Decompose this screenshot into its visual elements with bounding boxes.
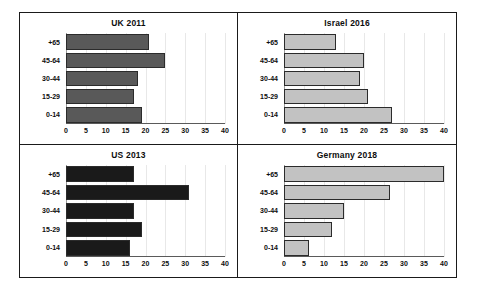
bar-row: 30-44 bbox=[284, 203, 444, 219]
bar-category-label: 0-14 bbox=[264, 111, 278, 118]
plot-area: +6545-6430-4415-290-14 bbox=[284, 33, 444, 124]
bar-category-label: +65 bbox=[48, 171, 60, 178]
x-tick-labels: 0510152025303540 bbox=[284, 127, 444, 139]
panel-title: Germany 2018 bbox=[238, 150, 456, 160]
bar bbox=[66, 34, 149, 49]
x-tick-label: 40 bbox=[221, 260, 229, 267]
bar bbox=[66, 185, 189, 201]
gridline bbox=[444, 33, 445, 124]
bar bbox=[284, 166, 444, 182]
bar-series: +6545-6430-4415-290-14 bbox=[284, 165, 444, 257]
x-tick-labels: 0510152025303540 bbox=[284, 260, 444, 272]
bar-category-label: 0-14 bbox=[264, 244, 278, 251]
bar bbox=[284, 34, 336, 49]
x-tick-label: 10 bbox=[320, 260, 328, 267]
gridline bbox=[444, 165, 445, 257]
gridline bbox=[225, 33, 226, 124]
x-tick-label: 35 bbox=[420, 127, 428, 134]
bar-category-label: 15-29 bbox=[42, 93, 60, 100]
x-tick-label: 5 bbox=[84, 127, 88, 134]
bar bbox=[284, 185, 390, 201]
bar-row: 45-64 bbox=[66, 185, 225, 201]
x-tick-label: 0 bbox=[282, 127, 286, 134]
bar bbox=[66, 53, 165, 68]
bar bbox=[284, 89, 368, 104]
bar-row: 0-14 bbox=[284, 107, 444, 122]
bar-category-label: 30-44 bbox=[260, 75, 278, 82]
bar-row: 15-29 bbox=[66, 89, 225, 104]
panel-title: Israel 2016 bbox=[238, 18, 456, 28]
bar-category-label: +65 bbox=[266, 39, 278, 46]
plot-area: +6545-6430-4415-290-14 bbox=[66, 33, 225, 124]
bar-row: 15-29 bbox=[284, 222, 444, 238]
x-tick-labels: 0510152025303540 bbox=[66, 260, 225, 272]
bar bbox=[284, 107, 392, 122]
bar-category-label: 30-44 bbox=[42, 207, 60, 214]
x-tick-label: 5 bbox=[302, 260, 306, 267]
bar bbox=[66, 71, 138, 86]
x-tick-label: 10 bbox=[102, 260, 110, 267]
x-tick-label: 30 bbox=[400, 260, 408, 267]
bar-row: +65 bbox=[66, 166, 225, 182]
bar-category-label: 30-44 bbox=[260, 207, 278, 214]
plot-area: +6545-6430-4415-290-14 bbox=[66, 165, 225, 257]
bar-row: 30-44 bbox=[66, 71, 225, 86]
x-tick-label: 15 bbox=[122, 260, 130, 267]
bar-row: 45-64 bbox=[66, 53, 225, 68]
bar-category-label: 45-64 bbox=[42, 57, 60, 64]
bar-category-label: 15-29 bbox=[42, 226, 60, 233]
x-tick-label: 0 bbox=[64, 260, 68, 267]
x-tick-label: 35 bbox=[201, 127, 209, 134]
panel-title: US 2013 bbox=[20, 150, 237, 160]
bar-row: 30-44 bbox=[284, 71, 444, 86]
x-tick-label: 20 bbox=[142, 127, 150, 134]
bar-series: +6545-6430-4415-290-14 bbox=[284, 33, 444, 124]
x-tick-label: 30 bbox=[181, 260, 189, 267]
bar-category-label: 30-44 bbox=[42, 75, 60, 82]
chart-panel-us-2013: US 2013 +6545-6430-4415-290-14 051015202… bbox=[20, 145, 238, 277]
x-tick-label: 20 bbox=[142, 260, 150, 267]
panel-title: UK 2011 bbox=[20, 18, 237, 28]
x-tick-label: 0 bbox=[64, 127, 68, 134]
bar-row: +65 bbox=[66, 34, 225, 49]
x-tick-label: 10 bbox=[102, 127, 110, 134]
x-tick-label: 35 bbox=[201, 260, 209, 267]
x-tick-label: 5 bbox=[302, 127, 306, 134]
bar-series: +6545-6430-4415-290-14 bbox=[66, 165, 225, 257]
bar-category-label: 0-14 bbox=[46, 111, 60, 118]
bar-row: 0-14 bbox=[66, 107, 225, 122]
bar-row: 15-29 bbox=[284, 89, 444, 104]
bar bbox=[66, 203, 134, 219]
x-tick-label: 40 bbox=[440, 127, 448, 134]
bar bbox=[66, 240, 130, 256]
bar bbox=[284, 203, 344, 219]
bar-series: +6545-6430-4415-290-14 bbox=[66, 33, 225, 124]
bar-row: 15-29 bbox=[66, 222, 225, 238]
bar bbox=[284, 53, 364, 68]
chart-figure: UK 2011 +6545-6430-4415-290-14 051015202… bbox=[19, 12, 457, 278]
x-tick-label: 35 bbox=[420, 260, 428, 267]
bar-row: 45-64 bbox=[284, 185, 444, 201]
x-tick-label: 15 bbox=[340, 260, 348, 267]
x-tick-label: 15 bbox=[340, 127, 348, 134]
bar-row: 45-64 bbox=[284, 53, 444, 68]
gridline bbox=[225, 165, 226, 257]
bar bbox=[284, 222, 332, 238]
x-tick-label: 5 bbox=[84, 260, 88, 267]
x-tick-label: 30 bbox=[181, 127, 189, 134]
x-tick-label: 25 bbox=[380, 260, 388, 267]
bar-category-label: +65 bbox=[48, 39, 60, 46]
x-tick-label: 10 bbox=[320, 127, 328, 134]
x-tick-label: 30 bbox=[400, 127, 408, 134]
x-tick-label: 0 bbox=[282, 260, 286, 267]
bar-row: +65 bbox=[284, 34, 444, 49]
bar bbox=[66, 107, 142, 122]
x-tick-label: 20 bbox=[360, 127, 368, 134]
chart-panel-uk-2011: UK 2011 +6545-6430-4415-290-14 051015202… bbox=[20, 13, 238, 145]
bar-row: 0-14 bbox=[284, 240, 444, 256]
bar bbox=[66, 89, 134, 104]
bar-category-label: 0-14 bbox=[46, 244, 60, 251]
x-tick-label: 25 bbox=[161, 260, 169, 267]
bar bbox=[284, 71, 360, 86]
bar-row: 30-44 bbox=[66, 203, 225, 219]
